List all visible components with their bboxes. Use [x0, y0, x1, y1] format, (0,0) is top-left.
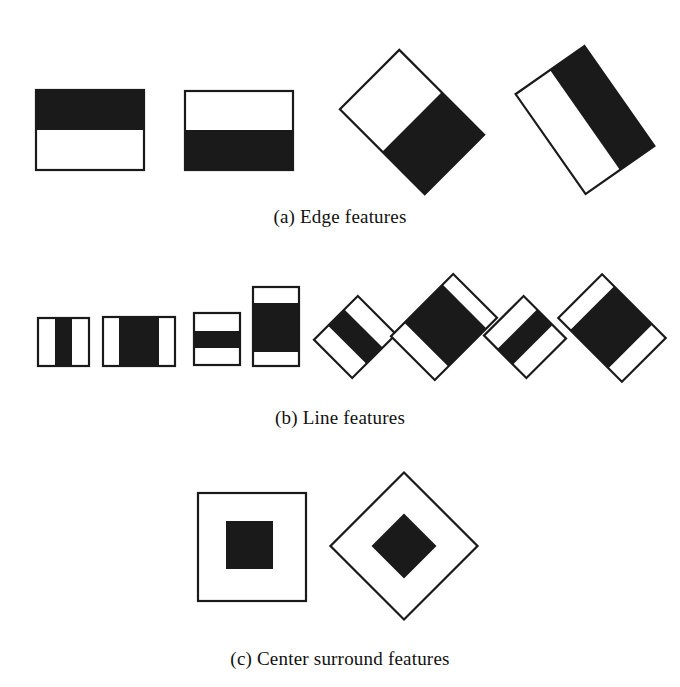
edge-upright-bottom-black-shape	[185, 91, 293, 170]
edge-rotated-tilted-right-black-shape	[516, 46, 655, 194]
line-upright-narrow-horizontal-shape	[194, 313, 240, 365]
line-upright-wide-horizontal-shape	[253, 287, 299, 366]
line-upright-wide-vertical-shape	[103, 317, 175, 366]
line-upright-narrow-vertical-shape	[38, 318, 89, 366]
line-features-group	[38, 274, 666, 382]
caption-edge-features: (a) Edge features	[0, 206, 680, 228]
line-rotated-narrow-a-shape	[314, 296, 396, 378]
caption-center-surround-features: (c) Center surround features	[0, 648, 680, 670]
edge-upright-top-black-shape	[36, 90, 144, 170]
feature-prototypes-canvas	[0, 0, 680, 687]
haar-feature-figure: (a) Edge features (b) Line features (c) …	[0, 0, 680, 687]
edge-features-group	[36, 46, 654, 194]
caption-line-features: (b) Line features	[0, 407, 680, 429]
line-rotated-wide-a-shape	[391, 274, 497, 380]
center-surround-upright-shape	[198, 493, 306, 601]
line-rotated-narrow-b-shape	[484, 296, 566, 378]
center-surround-features-group	[198, 472, 478, 619]
line-rotated-wide-b-shape	[558, 274, 665, 381]
edge-rotated-right-black-shape	[340, 50, 484, 194]
center-surround-rotated-shape	[330, 472, 477, 619]
